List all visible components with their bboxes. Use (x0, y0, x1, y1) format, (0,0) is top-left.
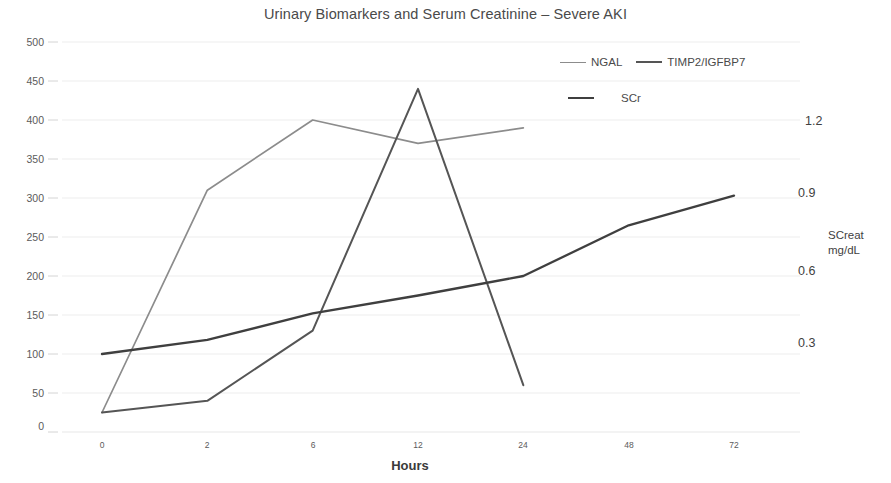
y-tick-marks (48, 42, 58, 432)
series-lines (102, 89, 734, 413)
gridlines (62, 42, 800, 432)
series-line-ngal (102, 120, 523, 413)
plot-area (0, 0, 891, 483)
series-line-scr (102, 196, 734, 354)
chart-container: Urinary Biomarkers and Serum Creatinine … (0, 0, 891, 483)
